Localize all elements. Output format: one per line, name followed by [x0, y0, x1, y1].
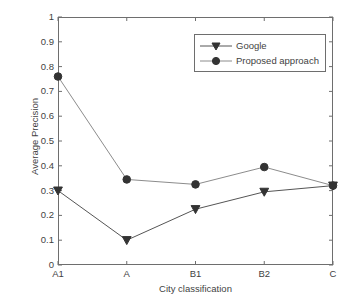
legend-item-proposed-approach: Proposed approach — [199, 53, 321, 68]
series-lines-group — [58, 77, 333, 241]
y-tick-label: 0.1 — [4, 235, 54, 245]
legend-label-google: Google — [236, 40, 267, 51]
x-tick-label: A1 — [52, 269, 64, 279]
legend-label-proposed-approach: Proposed approach — [236, 55, 319, 66]
y-axis-tick-labels: 00.10.20.30.40.50.60.70.80.91 — [0, 0, 54, 299]
data-point-proposed-approach-C — [329, 182, 337, 190]
y-tick-label: 1 — [4, 12, 54, 22]
data-point-proposed-approach-A1 — [54, 73, 62, 81]
x-tick-label: B2 — [258, 269, 270, 279]
x-axis-tick-labels: A1AB1B2C — [0, 269, 358, 283]
y-tick-label: 0.9 — [4, 37, 54, 47]
chart-legend: Google Proposed approach — [194, 34, 326, 72]
series-markers-group — [54, 73, 338, 245]
x-tick-label: A — [124, 269, 130, 279]
x-tick-label: C — [330, 269, 337, 279]
x-axis-title: City classification — [58, 283, 333, 294]
y-axis-title: Average Precision — [29, 57, 40, 217]
series-line-proposed-approach — [58, 77, 333, 186]
data-point-google-A — [122, 237, 131, 245]
legend-item-google: Google — [199, 38, 321, 53]
line-chart-figure: 00.10.20.30.40.50.60.70.80.91 A1AB1B2C C… — [0, 0, 358, 299]
circle-marker-icon — [199, 54, 233, 68]
data-point-google-B1 — [191, 206, 200, 214]
data-point-proposed-approach-B1 — [192, 181, 200, 189]
triangle-down-marker-icon — [199, 39, 233, 53]
data-point-proposed-approach-B2 — [260, 163, 268, 171]
x-tick-label: B1 — [190, 269, 202, 279]
data-point-proposed-approach-A — [123, 176, 131, 184]
